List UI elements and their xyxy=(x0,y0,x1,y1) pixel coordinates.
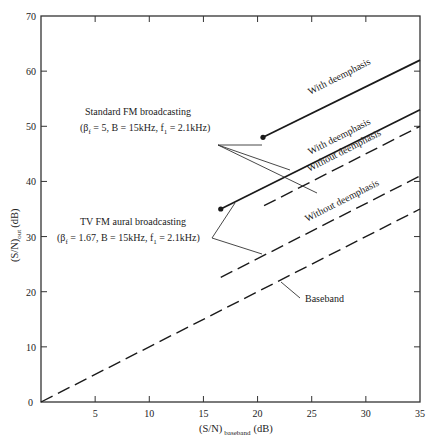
series-line-3 xyxy=(221,176,420,277)
y-tick-label: 50 xyxy=(26,121,36,132)
baseband-label: Baseband xyxy=(305,293,344,304)
x-tick-label: 25 xyxy=(307,408,317,419)
x-tick-label: 10 xyxy=(144,408,154,419)
snr-chart: 5101520253035010203040506070 Standard FM… xyxy=(0,0,434,445)
series-start-dot xyxy=(260,135,265,140)
std-fm-leader-2 xyxy=(218,145,290,170)
y-axis-title: (S/N)out(dB) xyxy=(9,208,23,262)
y-tick-label: 0 xyxy=(28,397,33,408)
tv-fm-title: TV FM aural broadcasting xyxy=(80,216,186,227)
axis-tick-labels: 5101520253035010203040506070 xyxy=(26,11,425,419)
x-tick-label: 15 xyxy=(198,408,208,419)
std-fm-with-deemphasis-label: With deemphasis xyxy=(306,56,372,97)
y-tick-label: 20 xyxy=(26,287,36,298)
axis-ticks xyxy=(41,16,420,402)
tv-fm-leader-2 xyxy=(212,238,262,254)
y-tick-label: 60 xyxy=(26,66,36,77)
std-fm-title: Standard FM broadcasting xyxy=(85,106,191,117)
x-axis-title: (S/N)baseband(dB) xyxy=(199,423,273,437)
x-tick-label: 5 xyxy=(93,408,98,419)
x-tick-label: 35 xyxy=(415,408,425,419)
tv-fm-without-deemphasis-label: Without deemphasis xyxy=(303,177,381,224)
std-fm-params: (βf = 5, B = 15kHz, f1 = 2.1kHz) xyxy=(80,122,210,136)
y-tick-label: 70 xyxy=(26,11,36,22)
y-tick-label: 40 xyxy=(26,176,36,187)
baseband-leader xyxy=(281,282,300,298)
y-tick-label: 10 xyxy=(26,342,36,353)
x-tick-label: 30 xyxy=(361,408,371,419)
y-tick-label: 30 xyxy=(26,232,36,243)
tv-fm-params: (βf = 1.67, B = 15kHz, f1 = 2.1kHz) xyxy=(57,232,200,246)
leader-lines xyxy=(212,145,317,298)
series-start-dot xyxy=(218,206,223,211)
plot-frame xyxy=(41,16,420,402)
x-tick-label: 20 xyxy=(253,408,263,419)
